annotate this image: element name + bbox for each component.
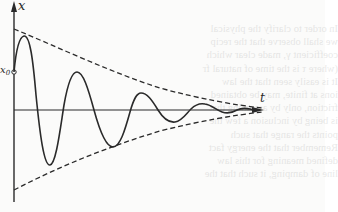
x0-subscript: 0 xyxy=(6,69,10,77)
arrow-up-icon xyxy=(11,1,17,12)
t-axis-label: t xyxy=(260,92,265,104)
x-axis-label: x xyxy=(18,0,25,12)
oscillation-curve xyxy=(14,36,258,165)
lower-envelope-curve xyxy=(14,112,262,190)
initial-displacement-label: x0 xyxy=(0,65,10,77)
vertical-axis xyxy=(11,1,17,202)
upper-envelope-curve xyxy=(14,29,262,108)
